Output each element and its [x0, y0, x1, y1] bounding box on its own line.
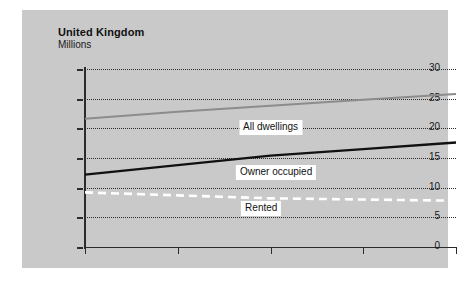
y-tick	[77, 69, 83, 71]
y-tick	[77, 217, 83, 219]
chart-panel: United Kingdom Millions 051015202530 198…	[22, 10, 448, 268]
chart-screenshot: United Kingdom Millions 051015202530 198…	[0, 0, 466, 290]
series-line-rented	[85, 192, 456, 200]
series-label-rented: Rented	[241, 201, 281, 216]
x-tick	[271, 248, 272, 254]
chart-title: United Kingdom	[58, 26, 144, 38]
series-line-all-dwellings	[85, 94, 456, 119]
x-tick	[85, 248, 86, 254]
x-tick	[363, 248, 364, 254]
series-label-owner-occupied: Owner occupied	[236, 165, 316, 180]
series-label-all-dwellings: All dwellings	[239, 120, 302, 135]
y-tick	[77, 158, 83, 160]
x-tick	[456, 248, 457, 254]
x-tick	[178, 248, 179, 254]
y-tick	[77, 99, 83, 101]
plot-area: 051015202530 19811986199119962001 All dw…	[85, 69, 456, 247]
chart-subtitle: Millions	[58, 39, 91, 50]
y-tick	[77, 188, 83, 190]
series-lines	[85, 69, 456, 247]
y-tick	[77, 128, 83, 130]
y-tick	[77, 247, 83, 249]
